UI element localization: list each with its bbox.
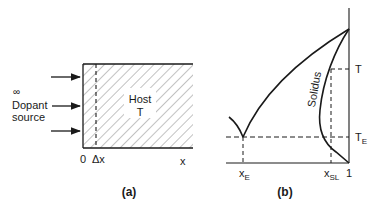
host-temperature-label: T <box>137 106 144 118</box>
unity-label: 1 <box>346 167 352 179</box>
panel-a: Host T ∞ Dopant source 0 Δx x (a) <box>12 64 193 199</box>
TE-label: TE <box>355 131 367 146</box>
xSL-label: xSL <box>324 167 340 182</box>
caption-b: (b) <box>277 185 292 199</box>
infinity-symbol: ∞ <box>13 86 20 97</box>
diagram-canvas: Host T ∞ Dopant source 0 Δx x (a) Solidu… <box>0 0 377 205</box>
panel-b: Solidus T TE xE xSL 1 (b) <box>226 8 367 199</box>
source-label: source <box>12 111 45 123</box>
axis-origin-label: 0 <box>80 153 86 165</box>
axis-delta-x-label: Δx <box>92 153 105 165</box>
host-label: Host <box>129 93 152 105</box>
xE-label: xE <box>239 167 250 182</box>
caption-a: (a) <box>122 185 137 199</box>
axis-x-label: x <box>180 155 186 167</box>
dopant-label: Dopant <box>12 99 47 111</box>
left-liquidus-curve <box>229 117 243 137</box>
T-label: T <box>355 63 362 75</box>
solidus-curve <box>320 29 349 163</box>
liquidus-curve <box>243 29 349 137</box>
